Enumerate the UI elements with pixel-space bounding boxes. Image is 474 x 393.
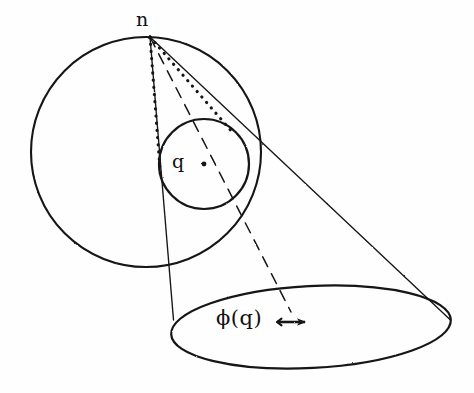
axis-dashed-line — [150, 37, 291, 312]
label-small-disk-q: q — [172, 150, 184, 172]
apex-point — [148, 36, 152, 40]
label-projected-disk-phi-q: ϕ(q) — [216, 306, 262, 330]
label-apex-n: n — [136, 8, 149, 30]
stereographic-projection-diagram — [0, 0, 474, 393]
figure-canvas: n q ϕ(q) — [0, 0, 474, 393]
tangent-dotted-right — [150, 37, 233, 133]
small-disk-center-point — [202, 162, 207, 167]
projection-plane-ellipse — [169, 279, 453, 376]
cone-line-right — [150, 37, 451, 320]
big-sphere-circle — [31, 37, 261, 267]
